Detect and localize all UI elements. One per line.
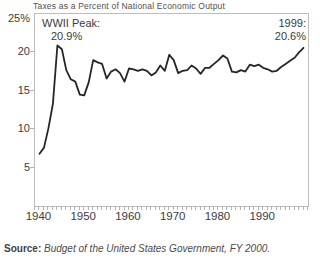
x-tick-mark <box>52 206 53 210</box>
y-tick-mark <box>29 51 34 52</box>
x-tick-mark <box>150 206 151 210</box>
x-tick-mark <box>235 206 236 210</box>
source-text: Budget of the United States Government, … <box>44 243 270 254</box>
annotation-1999: 1999: 20.6% <box>275 17 306 43</box>
annotation-wwii-peak-label: WWII Peak: <box>42 17 100 30</box>
x-tick-mark <box>276 206 277 210</box>
x-tick-mark <box>97 206 98 210</box>
x-axis-label: 1940 <box>26 210 52 222</box>
y-tick-mark <box>29 128 34 129</box>
y-axis-label: 10 <box>0 122 30 134</box>
x-tick-mark <box>141 206 142 210</box>
annotation-1999-label: 1999: <box>275 17 306 30</box>
x-tick-mark <box>155 206 156 210</box>
y-axis-label: 20 <box>0 45 30 57</box>
source-label: Source: <box>4 243 41 254</box>
annotation-wwii-peak-value: 20.9% <box>42 30 100 43</box>
x-tick-mark <box>285 206 286 210</box>
x-tick-mark <box>101 206 102 210</box>
x-tick-mark <box>303 206 304 210</box>
y-axis-label: 25% <box>0 12 30 24</box>
x-tick-mark <box>200 206 201 210</box>
annotation-1999-value: 20.6% <box>275 30 306 43</box>
x-tick-mark <box>244 206 245 210</box>
x-tick-mark <box>195 206 196 210</box>
x-axis-label: 1950 <box>70 210 96 222</box>
plot-area: WWII Peak: 20.9% 1999: 20.6% <box>34 13 309 207</box>
x-axis-label: 1990 <box>249 210 275 222</box>
x-tick-mark <box>231 206 232 210</box>
x-tick-mark <box>65 206 66 210</box>
chart-title: Taxes as a Percent of National Economic … <box>33 1 225 11</box>
source-line: Source: Budget of the United States Gove… <box>4 243 270 254</box>
x-tick-mark <box>110 206 111 210</box>
x-tick-mark <box>186 206 187 210</box>
annotation-wwii-peak: WWII Peak: 20.9% <box>42 17 100 43</box>
x-axis-label: 1980 <box>205 210 231 222</box>
x-tick-mark <box>56 206 57 210</box>
x-tick-mark <box>280 206 281 210</box>
x-axis-label: 1960 <box>115 210 141 222</box>
chart-figure: Taxes as a Percent of National Economic … <box>0 0 320 262</box>
y-tick-mark <box>29 167 34 168</box>
x-tick-mark <box>240 206 241 210</box>
x-tick-mark <box>289 206 290 210</box>
x-tick-mark <box>298 206 299 210</box>
y-tick-mark <box>29 90 34 91</box>
y-axis-label: 5 <box>0 161 30 173</box>
x-tick-mark <box>191 206 192 210</box>
x-tick-mark <box>61 206 62 210</box>
x-tick-mark <box>294 206 295 210</box>
y-axis-label: 15 <box>0 84 30 96</box>
x-axis-label: 1970 <box>160 210 186 222</box>
x-tick-mark <box>106 206 107 210</box>
tax-series-line <box>40 46 304 154</box>
x-tick-mark <box>307 206 308 210</box>
x-tick-mark <box>146 206 147 210</box>
